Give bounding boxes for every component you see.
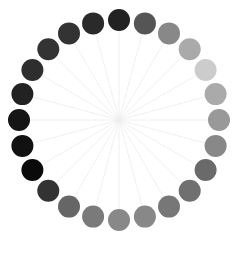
ring-dot-5	[195, 59, 217, 81]
ring-dot-15	[58, 196, 80, 218]
ring-dot-9	[195, 159, 217, 181]
ring-dot-14	[82, 206, 104, 228]
ring-dot-21	[21, 59, 43, 81]
ring-dot-8	[205, 135, 227, 157]
spoke-line	[119, 23, 145, 120]
ring-dot-18	[11, 135, 33, 157]
spoke-line	[69, 120, 119, 207]
ring-dot-2	[134, 12, 156, 34]
spoke-line	[119, 120, 145, 217]
ring-dot-1	[108, 9, 130, 31]
spoke-line	[22, 120, 119, 146]
spoke-line	[119, 94, 216, 120]
spoke-line	[32, 70, 119, 120]
spoke-line	[119, 33, 169, 120]
ring-dot-16	[37, 180, 59, 202]
spoke-line	[93, 23, 119, 120]
spoke-line	[119, 70, 206, 120]
ring-dot-6	[205, 83, 227, 105]
dot-ring-canvas	[0, 0, 234, 257]
spoke-line	[119, 120, 206, 170]
dot-ring-figure	[0, 0, 234, 257]
ring-dot-11	[158, 196, 180, 218]
spoke-line	[48, 120, 119, 191]
ring-dot-12	[134, 206, 156, 228]
spoke-line	[119, 120, 216, 146]
spoke-line	[119, 120, 169, 207]
ring-dot-13	[108, 209, 130, 231]
spoke-line	[32, 120, 119, 170]
ring-dot-23	[58, 22, 80, 44]
ring-dot-19	[8, 109, 30, 131]
ring-dot-24	[82, 12, 104, 34]
spoke-line	[119, 49, 190, 120]
ring-dot-22	[37, 38, 59, 60]
spoke-line	[22, 94, 119, 120]
spoke-line	[119, 120, 190, 191]
ring-dot-3	[158, 22, 180, 44]
ring-dot-17	[21, 159, 43, 181]
ring-dot-20	[11, 83, 33, 105]
spoke-line	[48, 49, 119, 120]
ring-dot-10	[179, 180, 201, 202]
spoke-line	[93, 120, 119, 217]
ring-dot-7	[208, 109, 230, 131]
ring-dot-4	[179, 38, 201, 60]
spoke-line	[69, 33, 119, 120]
